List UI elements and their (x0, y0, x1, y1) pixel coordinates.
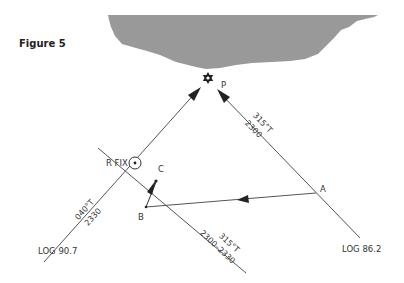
run-line-a-to-b (146, 193, 316, 207)
point-p-label: P (221, 80, 226, 90)
r-fix-label: R FIX (106, 158, 128, 168)
arrowhead-icon (147, 180, 156, 195)
landmass (108, 15, 378, 69)
point-c-label: C (158, 164, 164, 174)
navigation-fix-diagram: P R FIX C B A LOG 90.7 LOG 86.2 315°T 23… (0, 0, 404, 283)
point-a-label: A (320, 184, 326, 194)
bearing-line-040-2330 (44, 91, 197, 262)
run-line-b-to-c (146, 182, 156, 207)
point-c-dot (154, 179, 157, 182)
point-b-label: B (138, 212, 144, 222)
log-90-7-label: LOG 90.7 (38, 246, 77, 256)
lighthouse-star-icon (203, 72, 213, 84)
bearing-line-315-2300 (220, 93, 360, 238)
point-b-dot (145, 206, 148, 209)
fix-center-dot (134, 162, 137, 165)
log-86-2-label: LOG 86.2 (342, 244, 381, 254)
